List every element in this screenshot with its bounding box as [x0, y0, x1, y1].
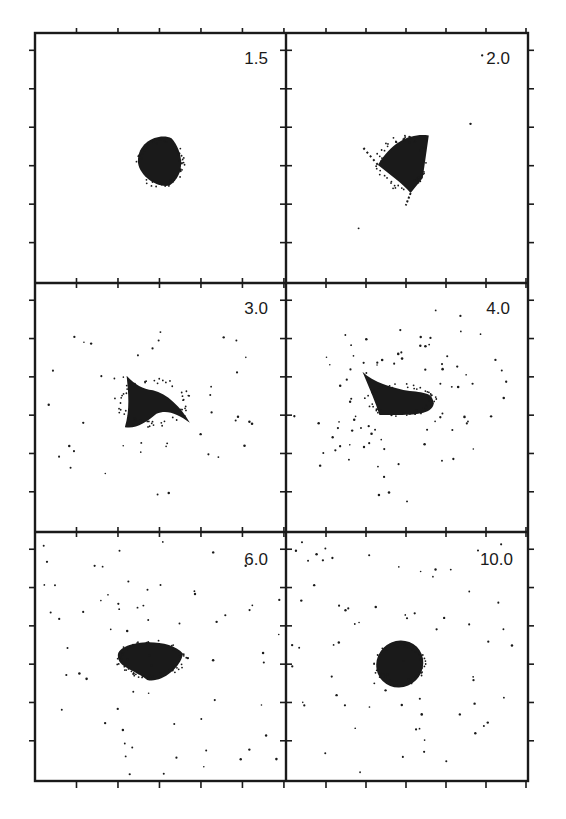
panel-label-10-0: 10.0 — [480, 550, 513, 569]
particle-clusters — [43, 54, 514, 775]
cluster-6-0 — [43, 541, 281, 775]
cluster-1-5 — [136, 137, 186, 188]
panel-label-1-5: 1.5 — [244, 49, 268, 68]
cluster-2-0 — [358, 54, 484, 229]
panel-label-2-0: 2.0 — [486, 49, 510, 68]
panel-label-4-0: 4.0 — [486, 299, 510, 318]
axis-ticks — [29, 28, 534, 788]
cluster-10-0 — [291, 541, 513, 773]
figure: 1.5 2.0 3.0 4.0 6.0 10.0 — [0, 0, 566, 819]
panel-frame — [35, 33, 528, 781]
panel-label-3-0: 3.0 — [244, 299, 268, 318]
cluster-4-0 — [293, 309, 507, 502]
panel-label-6-0: 6.0 — [244, 550, 268, 569]
cluster-3-0 — [47, 331, 253, 495]
